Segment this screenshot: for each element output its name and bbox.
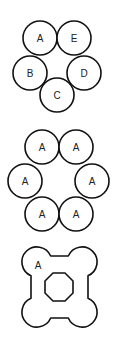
circle-top-right: A [59,130,93,164]
diagram-canvas: A E B D C A A A [0,0,114,344]
circle-label: C [53,90,60,101]
circle-label: A [22,176,29,187]
circle-left: A [8,164,42,198]
circle-label: A [39,142,46,153]
circle-e: E [57,21,91,55]
circle-top-left: A [25,130,59,164]
circle-c: C [40,78,74,112]
circle-label: D [80,68,87,79]
circle-label: A [73,209,80,220]
circle-d: D [67,56,101,90]
region-label: A [35,260,42,271]
circle-bottom-left: A [25,197,59,231]
figure-five-circle-ring: A E B D C [13,21,101,112]
circle-bottom-right: A [59,197,93,231]
circle-label: B [27,68,34,79]
circle-a: A [23,21,57,55]
circle-label: E [71,33,78,44]
octagon-hole [45,273,73,301]
circle-label: A [37,33,44,44]
figure-merged-region: A [22,247,97,327]
circle-label: A [73,142,80,153]
figure-six-circle-ring: A A A A A A [8,130,109,231]
circle-label: A [39,209,46,220]
circle-label: A [89,176,96,187]
circle-b: B [13,56,47,90]
circle-right: A [75,164,109,198]
